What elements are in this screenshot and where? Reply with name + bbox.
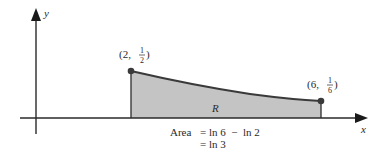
svg-text:ln 3: ln 3 [209, 138, 226, 150]
x-axis-label: x [360, 123, 366, 135]
point-left-endpoint [128, 68, 135, 75]
svg-text:Area: Area [170, 126, 191, 138]
svg-text:=: = [200, 138, 206, 150]
svg-text:1: 1 [328, 76, 332, 85]
y-axis-arrow-icon [31, 8, 41, 21]
svg-text:): ) [146, 48, 150, 61]
x-axis-arrow-icon [355, 113, 368, 123]
point-label-right: (6, 1 6 ) [307, 76, 338, 95]
region-label: R [211, 102, 219, 114]
point-label-left: (2, 1 2 ) [119, 46, 150, 65]
area-equation: Area = ln 6 − ln 2 = ln 3 [170, 126, 260, 150]
svg-text:=: = [200, 126, 206, 138]
point-right-endpoint [318, 98, 325, 105]
svg-text:1: 1 [140, 46, 144, 55]
area-under-curve-figure: y x (2, 1 2 ) (6, 1 6 ) R Area = ln 6 − … [0, 0, 385, 152]
svg-text:2: 2 [140, 56, 144, 65]
svg-text:(2,: (2, [119, 48, 131, 61]
svg-text:): ) [334, 78, 338, 91]
y-axis-label: y [43, 7, 49, 19]
svg-text:(6,: (6, [307, 78, 319, 91]
svg-text:ln 6 − ln 2: ln 6 − ln 2 [209, 126, 260, 138]
svg-text:6: 6 [328, 86, 332, 95]
